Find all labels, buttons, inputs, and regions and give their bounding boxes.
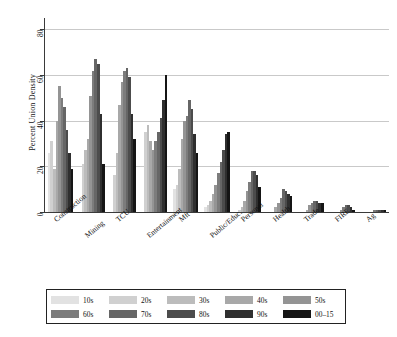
y-tick-label-40: 40 — [33, 121, 42, 129]
legend-label: 10s — [83, 296, 93, 305]
x-axis-labels: ConstructionMiningTCUEntertainmentMftPub… — [44, 213, 389, 275]
bar-group-construction — [48, 18, 74, 212]
legend-swatch-icon — [283, 310, 311, 318]
bar-group-mft — [173, 18, 199, 212]
legend-label: 40s — [257, 296, 267, 305]
x-axis-label-mining: Mining — [83, 219, 106, 240]
legend-row-bottom: 60s70s80s90s00–15 — [51, 307, 341, 321]
bar-groups — [45, 18, 389, 212]
legend-row-top: 10s20s30s40s50s — [51, 293, 341, 307]
bar-group-fire — [329, 18, 355, 212]
legend-swatch-icon — [225, 296, 253, 304]
legend-item-90s[interactable]: 90s — [225, 307, 283, 321]
bar — [321, 203, 324, 212]
bar — [133, 139, 136, 212]
legend-swatch-icon — [225, 310, 253, 318]
legend-item-00-15[interactable]: 00–15 — [283, 307, 341, 321]
legend-label: 60s — [83, 310, 93, 319]
legend-swatch-icon — [109, 296, 137, 304]
legend-swatch-icon — [283, 296, 311, 304]
bar — [352, 210, 355, 212]
legend-label: 90s — [257, 310, 267, 319]
bar-group-mining — [79, 18, 105, 212]
y-tick-label-0: 0 — [33, 213, 42, 217]
y-tick-label-60: 60 — [33, 76, 42, 84]
bar — [102, 164, 105, 212]
legend-swatch-icon — [109, 310, 137, 318]
legend-item-70s[interactable]: 70s — [109, 307, 167, 321]
legend-label: 20s — [141, 296, 151, 305]
bar-group-health — [267, 18, 293, 212]
legend-item-60s[interactable]: 60s — [51, 307, 109, 321]
legend-label: 00–15 — [315, 310, 333, 319]
x-axis-label-public-educ: Public/Educ. — [208, 208, 244, 240]
bar-group-entertainment — [142, 18, 168, 212]
legend-item-30s[interactable]: 30s — [167, 293, 225, 307]
legend-swatch-icon — [167, 296, 195, 304]
union-density-bar-chart: Percent Union Density 020406080 Construc… — [0, 0, 397, 337]
bar — [165, 75, 168, 212]
legend-swatch-icon — [167, 310, 195, 318]
bar-group-ag — [361, 18, 387, 212]
legend-swatch-icon — [51, 296, 79, 304]
legend-label: 30s — [199, 296, 209, 305]
legend-label: 70s — [141, 310, 151, 319]
legend-swatch-icon — [51, 310, 79, 318]
bar-group-tcu — [110, 18, 136, 212]
plot-area: 020406080 — [44, 18, 389, 213]
legend-item-80s[interactable]: 80s — [167, 307, 225, 321]
y-tick-label-20: 20 — [33, 167, 42, 175]
legend-label: 80s — [199, 310, 209, 319]
bar-group-trade — [298, 18, 324, 212]
bar — [227, 132, 230, 212]
chart-legend: 10s20s30s40s50s 60s70s80s90s00–15 — [46, 289, 346, 324]
bar — [384, 210, 387, 212]
bar — [196, 153, 199, 212]
legend-item-20s[interactable]: 20s — [109, 293, 167, 307]
bar-group-public-educ — [204, 18, 230, 212]
legend-label: 50s — [315, 296, 325, 305]
x-axis-label-ag: Ag — [364, 211, 377, 224]
legend-item-40s[interactable]: 40s — [225, 293, 283, 307]
legend-item-50s[interactable]: 50s — [283, 293, 341, 307]
legend-item-10s[interactable]: 10s — [51, 293, 109, 307]
bar-group-personal — [236, 18, 262, 212]
y-tick-label-80: 80 — [33, 30, 42, 38]
